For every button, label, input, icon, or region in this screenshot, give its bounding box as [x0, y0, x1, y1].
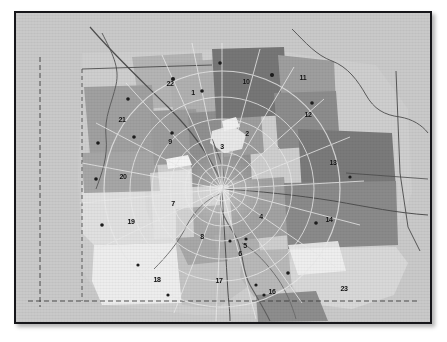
zone-poly-20 — [82, 151, 160, 193]
figure-page: 2345678910111213141617181920212223241 — [0, 0, 447, 342]
point-marker — [166, 293, 169, 296]
point-marker — [171, 77, 175, 81]
hub-glow — [180, 147, 264, 231]
point-marker — [132, 135, 136, 139]
point-marker — [348, 175, 351, 178]
point-marker — [270, 73, 274, 77]
zone-poly-14 — [284, 181, 398, 249]
point-marker — [200, 89, 204, 93]
zone-poly-21 — [84, 85, 156, 155]
point-marker — [244, 237, 247, 240]
point-marker — [286, 271, 290, 275]
map-figure-frame: 2345678910111213141617181920212223241 — [14, 11, 432, 324]
point-marker — [170, 131, 174, 135]
point-marker — [314, 221, 318, 225]
point-marker — [218, 61, 222, 65]
point-marker — [228, 239, 231, 242]
map-canvas — [16, 13, 430, 322]
point-marker — [96, 141, 100, 145]
point-marker — [254, 283, 257, 286]
point-marker — [136, 263, 139, 266]
point-marker — [310, 101, 314, 105]
point-marker — [100, 223, 104, 227]
point-marker — [94, 177, 98, 181]
point-marker — [126, 97, 130, 101]
point-marker — [262, 293, 265, 296]
